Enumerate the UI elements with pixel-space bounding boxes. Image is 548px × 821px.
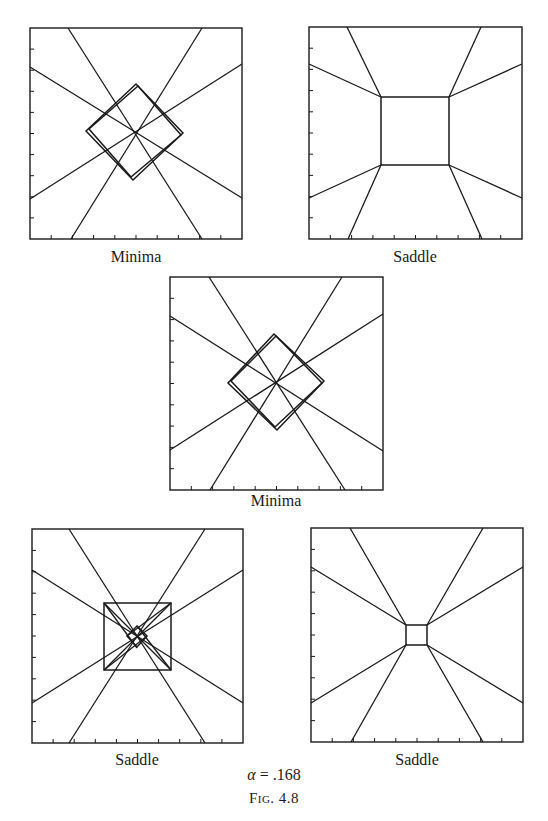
panel-label-minima-2: Minima (251, 492, 302, 510)
boundary-line (449, 165, 482, 239)
cell-polygon (406, 625, 427, 645)
panel-label-saddle-1: Saddle (393, 248, 437, 266)
boundary-line (347, 27, 381, 97)
boundary-line (348, 165, 381, 239)
boundary-line (351, 645, 406, 742)
boundary-line (311, 567, 406, 625)
panel-label-saddle-3: Saddle (395, 751, 439, 769)
cell-polygon (381, 97, 449, 165)
boundary-line (427, 645, 523, 703)
alpha-caption: α = .168 (247, 766, 300, 784)
alpha-value: = .168 (256, 766, 301, 783)
figure-canvas (0, 0, 548, 821)
plot-panel-saddle-4 (32, 529, 243, 743)
boundary-line (311, 645, 406, 703)
boundary-line (427, 567, 523, 625)
boundary-line (350, 528, 406, 625)
panel-frame (309, 27, 522, 239)
boundary-line (309, 64, 381, 97)
plot-panel-saddle-5 (311, 528, 523, 742)
plot-panel-minima-1 (30, 28, 242, 239)
boundary-line (449, 165, 522, 198)
plot-panel-saddle-2 (309, 27, 522, 239)
boundary-line (449, 64, 522, 97)
boundary-line (449, 27, 481, 97)
boundary-line (427, 528, 483, 625)
boundary-line (309, 165, 381, 198)
plot-panel-minima-3 (170, 277, 383, 490)
panel-label-minima-1: Minima (111, 248, 162, 266)
panel-label-saddle-2: Saddle (115, 751, 159, 769)
panel-frame (311, 528, 523, 742)
figure-caption: Fig. 4.8 (249, 790, 299, 807)
boundary-line (427, 645, 483, 742)
